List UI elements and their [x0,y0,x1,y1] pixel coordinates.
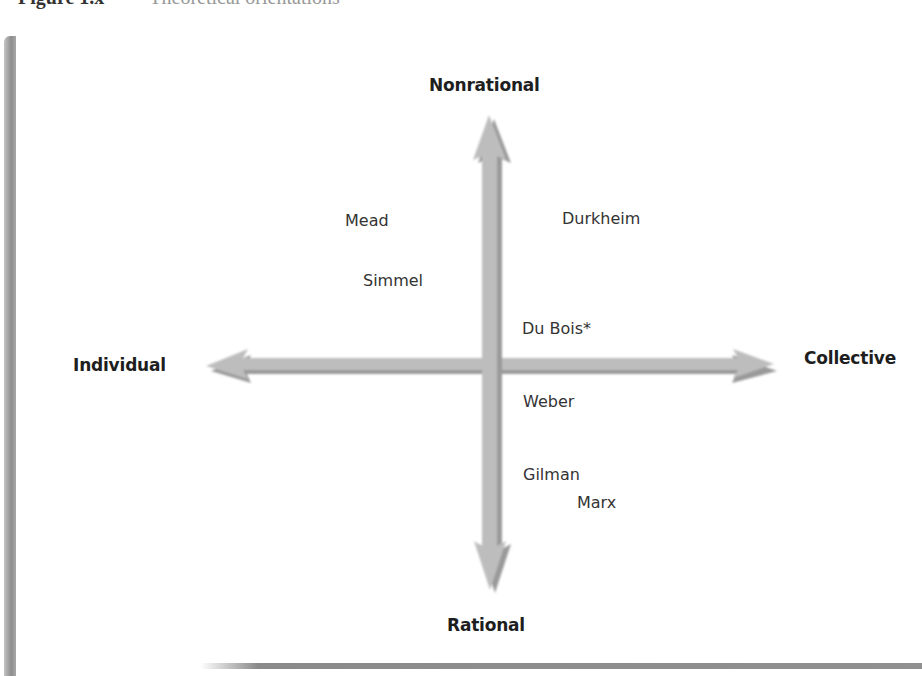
axis-label-bottom: Rational [447,615,525,635]
theorist-label: Gilman [523,465,580,484]
vertical-double-arrow-icon [473,115,511,593]
theorist-label: Mead [345,211,389,230]
theorist-label: Marx [577,493,616,512]
axis-label-right: Collective [804,348,896,368]
axis-label-left: Individual [73,355,166,375]
theorist-label: Durkheim [562,209,640,228]
theorist-label: Weber [523,392,574,411]
theorist-label: Du Bois* [522,319,591,338]
theorist-label: Simmel [363,271,423,290]
axis-label-top: Nonrational [429,75,540,95]
